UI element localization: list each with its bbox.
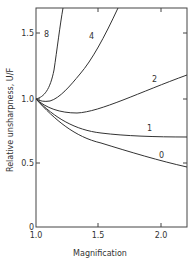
y-tick-label: 0.5 [21, 159, 34, 168]
y-tick-label: 0 [29, 223, 34, 232]
chart: 1.0 1.5 2.0 0 0.5 1.0 1.5 Magnification … [0, 0, 193, 264]
x-ticks [98, 8, 161, 227]
curve-label-4: 4 [89, 32, 94, 41]
y-axis-title: Relative unsharpness, U/F [6, 68, 15, 172]
curve-label-1: 1 [147, 124, 152, 133]
curve-8 [36, 8, 63, 99]
curve-0 [36, 99, 187, 167]
curve-2 [36, 75, 187, 113]
curve-label-2: 2 [152, 75, 157, 84]
x-tick-label: 2.0 [155, 231, 168, 240]
y-ticks [36, 33, 187, 163]
x-axis-title: Magnification [73, 249, 127, 258]
curve-label-0: 0 [159, 151, 164, 160]
x-tick-label: 1.0 [30, 231, 43, 240]
y-tick-label: 1.0 [21, 95, 34, 104]
x-tick-label: 1.5 [92, 231, 105, 240]
y-tick-label: 1.5 [21, 29, 34, 38]
curves [36, 8, 187, 167]
curve-label-8: 8 [44, 30, 49, 39]
